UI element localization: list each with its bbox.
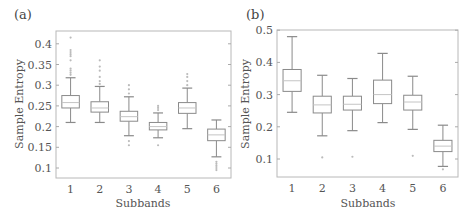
outlier-point [186,73,188,75]
y-tick-label: 0.35 [28,59,53,72]
panel-a: (a) 0.10.150.20.250.30.350.4 123456 Subb… [13,7,231,210]
panel-a-label: (a) [14,7,32,22]
y-tick-label: 0.4 [256,56,274,69]
x-axis-ticks-a: 123456 [67,183,220,196]
outlier-point [99,76,101,78]
outlier-point [215,165,217,167]
boxplot [374,53,392,122]
outlier-point [157,144,159,146]
outlier-point [351,156,353,158]
boxplot [208,120,226,171]
outlier-point [99,80,101,82]
outlier-point [128,144,130,146]
outlier-point [412,155,414,157]
outlier-point [128,88,130,90]
x-tick-label: 3 [125,183,132,196]
outlier-point [215,161,217,163]
x-tick-label: 2 [319,182,326,195]
y-tick-label: 0.2 [35,121,53,134]
y-tick-label: 0.1 [35,162,53,175]
y-tick-label: 0.1 [256,153,274,166]
y-tick-label: 0.25 [28,100,53,113]
outlier-point [157,107,159,109]
outlier-point [215,167,217,169]
y-tick-label: 0.15 [28,141,53,154]
y-tick-label: 0.3 [35,79,53,92]
boxplot [343,79,361,158]
outlier-point [99,65,101,67]
x-tick-label: 2 [96,183,103,196]
boxplots-a [62,36,225,171]
outlier-point [69,51,71,53]
outlier-point [321,156,323,158]
x-tick-label: 3 [349,182,356,195]
boxplot [404,76,422,157]
plot-frame-a [56,31,231,178]
outlier-point [215,169,217,171]
x-axis-title-a: Subbands [115,197,170,210]
panel-b-label: (b) [246,7,264,22]
x-tick-label: 4 [379,182,386,195]
outlier-point [186,76,188,78]
y-tick-label: 0.5 [256,24,274,37]
y-tick-label: 0.2 [256,121,274,134]
plot-frame-b [277,30,458,177]
x-tick-label: 1 [289,182,296,195]
outlier-point [69,55,71,57]
x-tick-label: 5 [184,183,191,196]
y-tick-label: 0.3 [256,89,274,102]
boxplot [120,84,138,146]
x-axis-ticks-b: 123456 [289,182,447,195]
outlier-point [69,72,71,74]
outlier-point [128,92,130,94]
outlier-point [69,59,71,61]
y-axis-title-a: Sample Entropy [13,58,26,149]
outlier-point [186,80,188,82]
outlier-point [215,163,217,165]
boxplots-b [283,37,452,171]
x-tick-label: 5 [409,182,416,195]
x-tick-label: 6 [213,183,220,196]
y-axis-title-b: Sample Entropy [239,58,252,149]
x-tick-label: 6 [439,182,446,195]
outlier-point [69,70,71,72]
x-tick-label: 1 [67,183,74,196]
boxplot [62,36,80,122]
outlier-point [99,83,101,85]
boxplot [91,59,109,122]
y-tick-label: 0.4 [35,38,53,51]
x-tick-label: 4 [155,183,162,196]
boxplot [283,37,301,113]
boxplot [149,105,167,147]
x-axis-title-b: Subbands [340,197,395,210]
outlier-point [157,109,159,111]
outlier-point [442,168,444,170]
outlier-point [99,59,101,61]
outlier-point [157,105,159,107]
outlier-point [99,70,101,72]
outlier-point [69,68,71,70]
outlier-point [69,49,71,51]
outlier-point [128,84,130,86]
outlier-point [69,53,71,55]
outlier-point [128,140,130,142]
outlier-point [69,36,71,38]
boxplot [179,73,197,129]
figure: (a) 0.10.150.20.250.30.350.4 123456 Subb… [0,0,474,214]
boxplot [313,75,331,158]
y-axis-ticks-b: 0.10.20.30.40.5 [256,24,459,166]
outlier-point [186,84,188,86]
boxplot [434,125,452,170]
panel-b: (b) 0.10.20.30.40.5 123456 Subbands Samp… [239,7,458,210]
outlier-point [69,74,71,76]
